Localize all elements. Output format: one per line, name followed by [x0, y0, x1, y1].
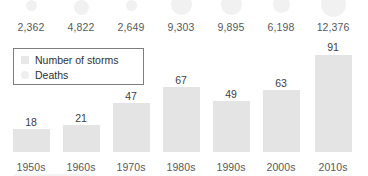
bar-value-1990s: 49	[206, 88, 256, 100]
category-label-2010s: 2010s	[308, 161, 358, 173]
deaths-bubble-1960s[interactable]	[74, 0, 89, 15]
deaths-value-2010s: 12,376	[306, 21, 360, 33]
bar-1950s[interactable]	[13, 129, 50, 152]
bar-value-2010s: 91	[308, 41, 358, 53]
square-swatch-icon	[21, 56, 29, 64]
clipped-bottom-artifact	[14, 174, 90, 176]
chart-legend: Number of storms Deaths	[13, 48, 144, 85]
bar-value-2000s: 63	[256, 77, 306, 89]
category-label-1960s: 1960s	[56, 161, 106, 173]
deaths-bubble-1950s[interactable]	[26, 0, 37, 11]
category-label-1990s: 1990s	[206, 161, 256, 173]
bar-value-1950s: 18	[6, 116, 56, 128]
deaths-value-1990s: 9,895	[206, 21, 256, 33]
storms-deaths-chart: 2,362 4,822 2,649 9,303 9,895 6,198 12,3…	[0, 0, 368, 176]
bar-value-1980s: 67	[156, 74, 206, 86]
deaths-value-1980s: 9,303	[156, 21, 206, 33]
circle-swatch-icon	[21, 71, 29, 79]
legend-label-number-of-storms: Number of storms	[35, 54, 118, 66]
category-label-1980s: 1980s	[156, 161, 206, 173]
deaths-value-1950s: 2,362	[6, 21, 56, 33]
bar-1980s[interactable]	[163, 87, 200, 152]
legend-item-deaths[interactable]: Deaths	[21, 67, 143, 82]
legend-label-deaths: Deaths	[35, 69, 68, 81]
category-label-2000s: 2000s	[256, 161, 306, 173]
deaths-bubble-1990s[interactable]	[221, 0, 242, 15]
deaths-bubble-2010s[interactable]	[321, 0, 346, 17]
bar-1960s[interactable]	[63, 125, 100, 152]
category-label-1950s: 1950s	[6, 161, 56, 173]
bar-2010s[interactable]	[315, 55, 352, 152]
deaths-value-1960s: 4,822	[56, 21, 106, 33]
deaths-value-1970s: 2,649	[106, 21, 156, 33]
deaths-bubble-1970s[interactable]	[126, 0, 137, 11]
category-label-1970s: 1970s	[106, 161, 156, 173]
legend-item-number-of-storms[interactable]: Number of storms	[21, 52, 143, 67]
bar-1990s[interactable]	[213, 101, 250, 152]
bar-value-1960s: 21	[56, 112, 106, 124]
bar-value-1970s: 47	[106, 90, 156, 102]
bar-2000s[interactable]	[263, 90, 300, 152]
deaths-bubble-2000s[interactable]	[273, 0, 290, 13]
deaths-value-2000s: 6,198	[256, 21, 306, 33]
deaths-bubble-1980s[interactable]	[171, 0, 192, 15]
deaths-bubble-layer	[0, 0, 368, 20]
bar-1970s[interactable]	[113, 103, 150, 152]
